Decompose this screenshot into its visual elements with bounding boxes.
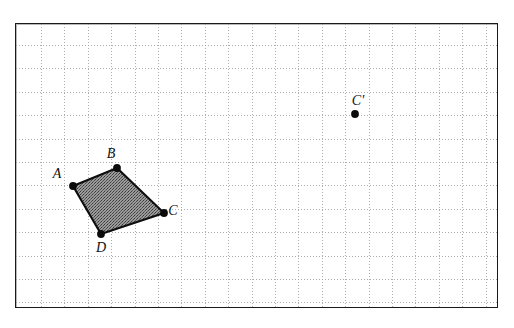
- vertex-label-a: A: [52, 166, 62, 181]
- caption-text: of this transformation: [20, 0, 94, 2]
- vertex-point-c[interactable]: [160, 209, 168, 217]
- vertex-point-b[interactable]: [113, 164, 121, 172]
- vertex-point-d[interactable]: [97, 230, 105, 238]
- plot-svg: ABCD C': [16, 24, 498, 308]
- point-label-c-prime: C': [352, 93, 365, 108]
- point-c-prime[interactable]: [351, 110, 359, 118]
- shapes-group: ABCD: [52, 146, 179, 255]
- vertex-label-c: C: [168, 203, 178, 218]
- figure-frame: ABCD C': [15, 23, 498, 308]
- vertex-point-a[interactable]: [69, 182, 77, 190]
- vertex-label-d: D: [95, 240, 106, 255]
- vertex-label-b: B: [107, 146, 116, 161]
- points-group: C': [351, 93, 365, 118]
- caption-strip: of this transformation: [0, 0, 514, 9]
